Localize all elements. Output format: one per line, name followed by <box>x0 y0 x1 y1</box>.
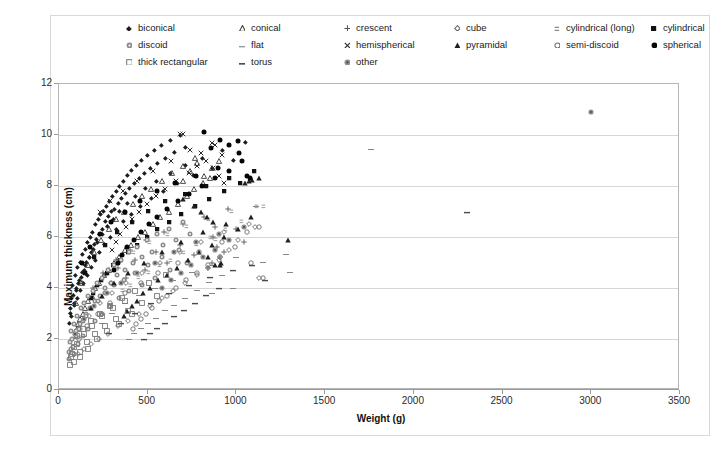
data-point <box>146 280 152 286</box>
data-point <box>133 321 139 327</box>
data-point <box>139 270 145 276</box>
data-point <box>588 109 594 115</box>
data-point <box>75 341 81 347</box>
data-point <box>161 189 166 194</box>
data-point <box>129 168 134 173</box>
data-point <box>132 270 138 276</box>
data-point <box>78 260 83 265</box>
data-point <box>76 281 81 286</box>
x-tick-label: 500 <box>127 396 167 406</box>
data-point <box>93 222 98 227</box>
data-point <box>201 173 207 179</box>
data-point <box>81 331 87 337</box>
data-point <box>194 272 200 278</box>
data-point <box>193 173 199 179</box>
data-point <box>71 359 77 365</box>
data-point <box>152 148 157 153</box>
data-point <box>104 290 110 296</box>
data-point <box>109 209 114 214</box>
x-axis-line <box>58 389 679 390</box>
data-point <box>140 290 146 296</box>
data-point <box>134 163 139 168</box>
legend-item-flat[interactable]: flat <box>236 37 264 53</box>
data-point <box>115 265 121 271</box>
legend-item-spherical[interactable]: spherical <box>648 37 701 53</box>
data-point <box>243 140 248 145</box>
legend-item-crescent[interactable]: crescent <box>341 20 392 36</box>
data-point <box>107 199 112 204</box>
legend-item-cylindrical[interactable]: cylindrical <box>648 20 705 36</box>
data-point <box>150 221 156 227</box>
data-point <box>80 326 86 332</box>
data-point <box>125 201 130 206</box>
data-point <box>194 242 199 247</box>
data-point <box>214 244 220 250</box>
data-point <box>153 193 159 199</box>
data-point <box>116 295 122 301</box>
data-point <box>104 204 109 209</box>
legend-item-discoid[interactable]: discoid <box>123 37 168 53</box>
data-point <box>217 262 223 268</box>
data-point <box>143 311 149 317</box>
dash-icon <box>236 37 248 53</box>
data-point <box>186 170 192 176</box>
legend-item-cube[interactable]: cube <box>451 20 487 36</box>
data-point <box>159 178 165 184</box>
legend-item-thick-rectangular[interactable]: thick rectangular <box>123 54 208 70</box>
data-point <box>87 244 93 250</box>
legend-item-cylindrical-long-[interactable]: cylindrical (long) <box>551 20 635 36</box>
data-point <box>205 262 211 268</box>
data-point <box>74 313 80 319</box>
data-point <box>203 158 209 164</box>
legend-item-conical[interactable]: conical <box>236 20 281 36</box>
data-point <box>207 175 213 181</box>
data-point <box>106 332 112 335</box>
data-point <box>91 249 97 255</box>
legend-label: hemispherical <box>356 39 415 50</box>
data-point <box>84 323 90 329</box>
data-point <box>232 244 238 250</box>
data-point <box>134 298 140 304</box>
data-point <box>124 308 130 314</box>
data-point <box>88 305 94 311</box>
legend-item-hemispherical[interactable]: hemispherical <box>341 37 415 53</box>
legend-label: other <box>356 56 378 67</box>
data-point <box>164 260 170 266</box>
data-point <box>88 305 94 311</box>
data-point <box>178 239 184 245</box>
data-point <box>78 305 84 311</box>
data-point <box>183 192 187 196</box>
x-tick-mark <box>324 390 325 394</box>
data-point <box>147 240 152 245</box>
data-point <box>252 224 258 230</box>
data-point <box>191 252 197 258</box>
data-point <box>75 296 80 301</box>
legend-item-other[interactable]: other <box>341 54 378 70</box>
data-point <box>178 270 184 276</box>
y-tick-label: 8 <box>22 180 52 190</box>
data-point <box>101 272 107 278</box>
data-point <box>198 150 204 156</box>
legend-item-semi-discoid[interactable]: semi-discoid <box>551 37 619 53</box>
data-point <box>74 341 80 347</box>
data-point <box>98 212 103 217</box>
data-point <box>132 257 138 263</box>
data-point <box>205 254 211 260</box>
legend-item-pyramidal[interactable]: pyramidal <box>451 37 507 53</box>
legend-label: discoid <box>138 39 168 50</box>
data-point <box>97 293 103 299</box>
data-point <box>116 201 121 206</box>
data-point <box>194 289 200 292</box>
data-point <box>218 260 224 266</box>
data-point <box>181 250 186 255</box>
legend-item-torus[interactable]: torus <box>236 54 272 70</box>
data-point <box>83 313 89 319</box>
data-point <box>150 168 156 174</box>
data-point <box>170 279 176 282</box>
legend-item-biconical[interactable]: biconical <box>123 20 175 36</box>
data-point <box>89 296 93 300</box>
data-point <box>141 260 147 266</box>
data-point <box>210 165 216 171</box>
data-point <box>111 262 117 268</box>
data-point <box>81 300 87 306</box>
